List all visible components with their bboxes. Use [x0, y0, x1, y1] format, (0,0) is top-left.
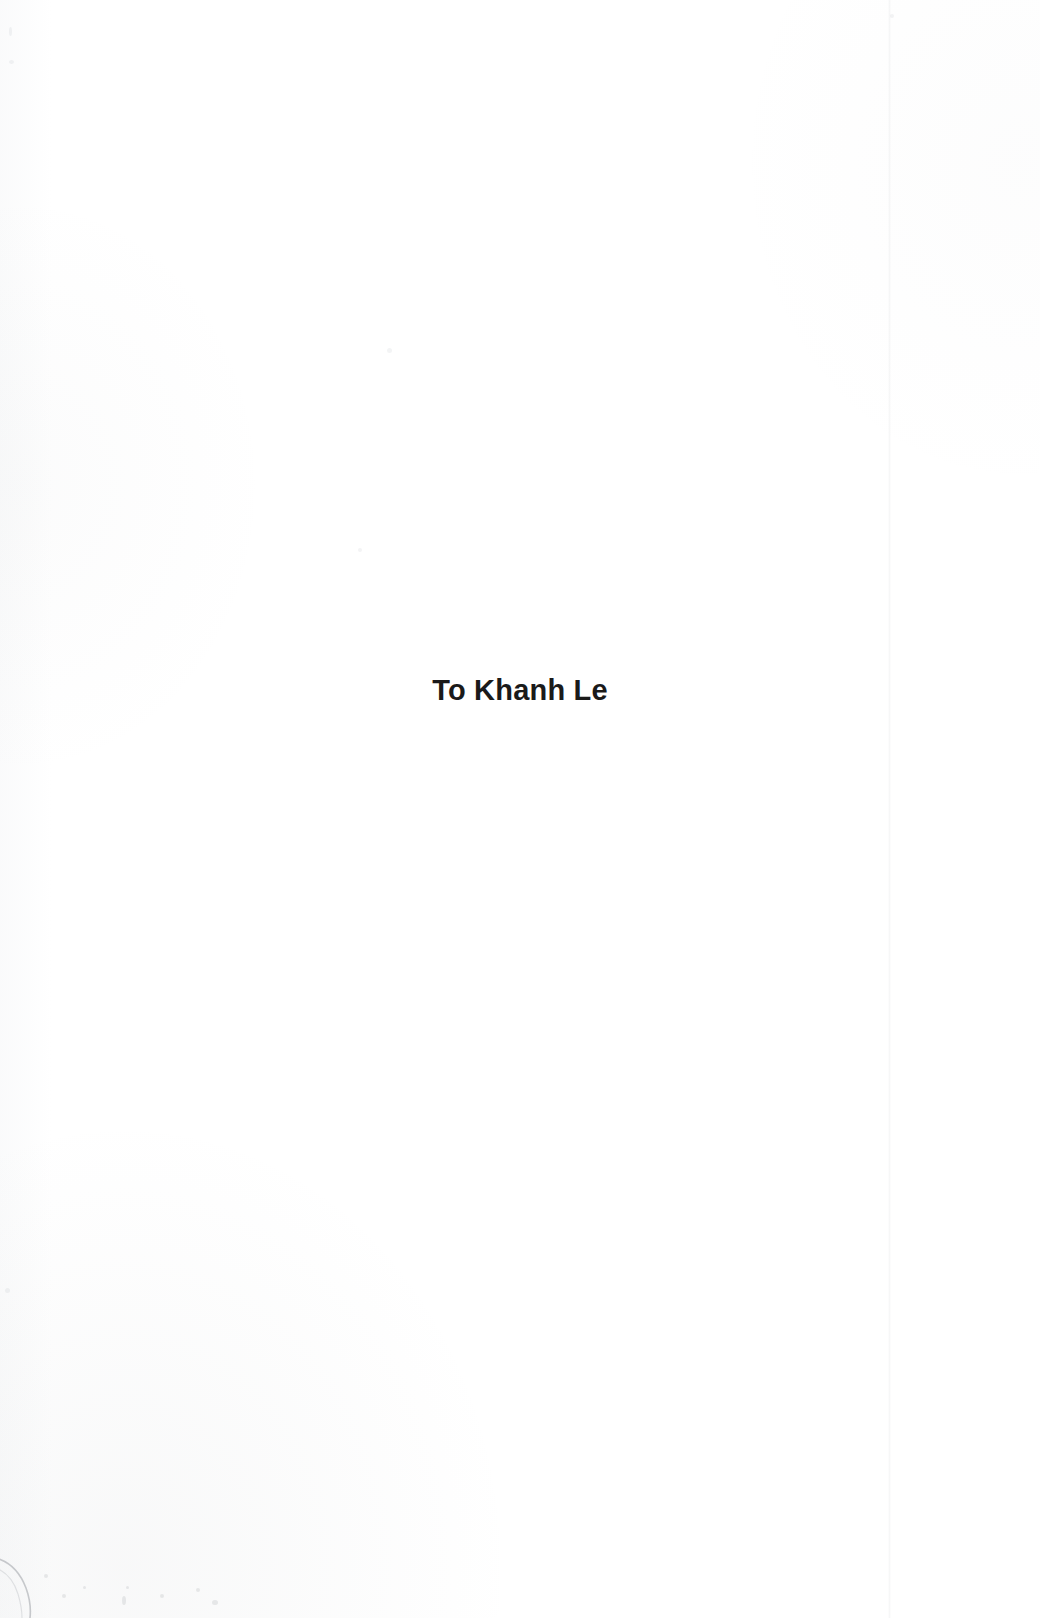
scan-speck	[122, 1596, 126, 1605]
scan-speck	[890, 14, 894, 18]
scan-speck	[196, 1588, 200, 1592]
scan-speck	[62, 1594, 66, 1598]
page-curl-artifact	[0, 1554, 80, 1618]
scan-speck	[358, 548, 362, 552]
scan-speck	[126, 1586, 129, 1589]
scan-speck	[5, 1288, 10, 1293]
paper-texture	[0, 0, 1040, 1618]
scan-speck	[9, 27, 12, 36]
scan-gutter-shade	[888, 0, 891, 1618]
scan-speck	[387, 348, 392, 353]
scan-speck	[160, 1594, 164, 1598]
scan-speck	[9, 60, 14, 64]
scan-speck	[212, 1600, 218, 1605]
scanned-page: To Khanh Le	[0, 0, 1040, 1618]
scan-speck	[83, 1586, 86, 1589]
scan-speck	[44, 1574, 48, 1578]
dedication-block: To Khanh Le	[0, 672, 1040, 708]
dedication-text: To Khanh Le	[432, 672, 608, 708]
